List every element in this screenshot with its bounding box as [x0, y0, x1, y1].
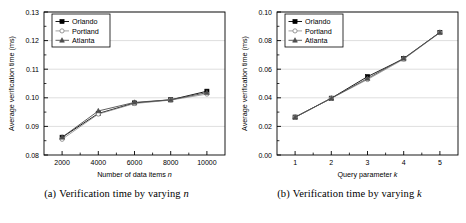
x-tick-label: 3: [366, 159, 370, 166]
legend-label-orlando: Orlando: [72, 17, 98, 26]
x-tick-label: 4000: [91, 159, 107, 166]
y-axis-title: Average verification time (ms): [240, 36, 249, 131]
x-tick-label: 8000: [163, 159, 179, 166]
caption-a: (a)Verification time by varying n: [0, 188, 233, 199]
caption-a-label: (a): [44, 188, 56, 199]
panel-b: 0.000.020.040.060.080.1012345Query param…: [233, 0, 466, 223]
figure-two-panel-line-charts: 0.080.090.100.110.120.132000400060008000…: [0, 0, 466, 223]
caption-b-var: k: [417, 188, 422, 199]
legend-marker-portland: [60, 29, 64, 33]
legend-marker-portland: [293, 29, 297, 33]
y-tick-label: 0.08: [258, 37, 272, 44]
x-axis-title: Number of data items n: [97, 170, 172, 179]
y-axis-title: Average verification time (ms): [7, 36, 16, 131]
caption-b-label: (b): [277, 188, 290, 199]
x-axis-title: Query parameter k: [338, 170, 398, 179]
chart-b-svg: 0.000.020.040.060.080.1012345Query param…: [233, 0, 466, 188]
x-tick-label: 10000: [197, 159, 217, 166]
legend-marker-orlando: [293, 19, 297, 23]
y-tick-label: 0.06: [258, 66, 272, 73]
y-tick-label: 0.00: [258, 152, 272, 159]
chart-b-plot: 0.000.020.040.060.080.1012345Query param…: [233, 0, 466, 188]
series-line-orlando: [62, 91, 207, 137]
y-tick-label: 0.09: [25, 123, 39, 130]
legend-marker-orlando: [60, 19, 64, 23]
y-tick-label: 0.12: [25, 37, 39, 44]
panel-a: 0.080.090.100.110.120.132000400060008000…: [0, 0, 233, 223]
caption-b-text: Verification time by varying: [293, 188, 414, 199]
legend-label-orlando: Orlando: [305, 17, 331, 26]
legend-label-portland: Portland: [305, 27, 332, 36]
y-tick-label: 0.10: [25, 94, 39, 101]
caption-b: (b)Verification time by varying k: [233, 188, 466, 199]
y-tick-label: 0.08: [25, 152, 39, 159]
caption-a-text: Verification time by varying: [59, 188, 180, 199]
x-tick-label: 2: [329, 159, 333, 166]
chart-a-plot: 0.080.090.100.110.120.132000400060008000…: [0, 0, 233, 188]
y-tick-label: 0.13: [25, 9, 39, 16]
y-tick-label: 0.02: [258, 123, 272, 130]
chart-a-svg: 0.080.090.100.110.120.132000400060008000…: [0, 0, 233, 188]
y-tick-label: 0.10: [258, 9, 272, 16]
y-tick-label: 0.11: [26, 66, 39, 73]
legend-label-atlanta: Atlanta: [72, 36, 94, 45]
legend-label-portland: Portland: [72, 27, 99, 36]
x-tick-label: 2000: [54, 159, 70, 166]
legend-label-atlanta: Atlanta: [305, 36, 327, 45]
x-tick-label: 4: [402, 159, 406, 166]
x-tick-label: 6000: [127, 159, 143, 166]
caption-a-var: n: [183, 188, 188, 199]
x-tick-label: 5: [438, 159, 442, 166]
x-tick-label: 1: [293, 159, 297, 166]
y-tick-label: 0.04: [258, 94, 272, 101]
